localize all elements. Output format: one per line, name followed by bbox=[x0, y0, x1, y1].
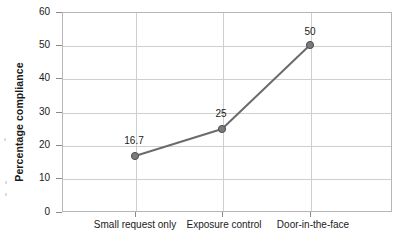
data-point-label: 50 bbox=[304, 26, 315, 37]
line-chart-figure: Percentage compliance 60 50 40 30 20 10 … bbox=[0, 0, 405, 243]
series-polyline bbox=[135, 45, 310, 156]
data-point-marker bbox=[218, 125, 225, 132]
x-axis-category-label: Exposure control bbox=[186, 219, 261, 230]
x-axis-category-label: Door-in-the-face bbox=[277, 219, 349, 230]
data-point-label: 25 bbox=[215, 108, 226, 119]
x-axis-category-label: Small request only bbox=[94, 219, 176, 230]
data-point-label: 16.7 bbox=[124, 135, 143, 146]
data-point-marker bbox=[306, 41, 313, 48]
data-point-marker bbox=[131, 152, 138, 159]
data-series-line bbox=[0, 0, 405, 243]
